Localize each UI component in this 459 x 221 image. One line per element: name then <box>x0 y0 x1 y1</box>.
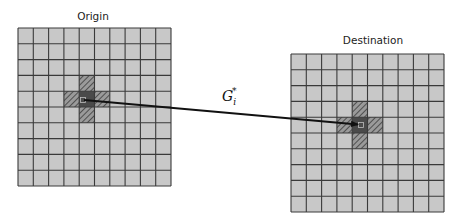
neighbor-cell <box>368 117 383 133</box>
flow-label-superscript: * <box>232 86 237 96</box>
center-cell <box>79 91 94 107</box>
neighbor-cell <box>79 75 94 91</box>
neighbor-cell <box>352 133 367 149</box>
flow-label: Gi* <box>222 86 237 107</box>
destination-label: Destination <box>343 34 403 46</box>
center-cell <box>352 117 367 133</box>
origin-label: Origin <box>77 10 109 22</box>
neighbor-cell <box>79 107 94 123</box>
flow-label-subscript: i <box>233 97 236 107</box>
origin-grid <box>18 28 171 186</box>
neighbor-cell <box>95 91 110 107</box>
neighbor-cell <box>64 91 79 107</box>
neighbor-cell <box>337 117 352 133</box>
neighbor-cell <box>352 101 367 117</box>
destination-grid <box>291 54 444 212</box>
